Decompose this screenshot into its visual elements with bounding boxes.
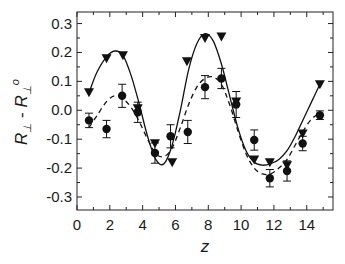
circle-point: [266, 174, 274, 182]
y-tick-label: -0.2: [46, 159, 72, 176]
y-tick-label: 0.0: [51, 101, 72, 118]
triangle-point: [216, 33, 226, 42]
x-tick-label: 14: [298, 216, 315, 233]
y-tick-label: 0.2: [51, 43, 72, 60]
circle-point: [232, 100, 240, 108]
y-tick-label: 0.1: [51, 72, 72, 89]
triangle-point: [315, 80, 325, 89]
circle-point: [166, 132, 174, 140]
y-tick-label: -0.3: [46, 188, 72, 205]
triangle-point: [167, 158, 177, 167]
x-tick-label: 0: [73, 216, 81, 233]
triangle-point: [84, 88, 94, 97]
x-tick-label: 12: [266, 216, 283, 233]
circle-point: [118, 92, 126, 100]
y-tick-label: 0.3: [51, 15, 72, 32]
x-tick-label: 8: [204, 216, 212, 233]
triangle-point: [118, 51, 128, 60]
circle-point: [184, 128, 192, 136]
circle-point: [283, 167, 291, 175]
x-tick-label: 10: [233, 216, 250, 233]
circle-point: [85, 116, 93, 124]
circle-point: [217, 74, 225, 82]
x-tick-label: 2: [106, 216, 114, 233]
circle-point: [134, 108, 142, 116]
y-axis-label: R⊥ - R⊥o: [9, 79, 33, 145]
circle-point: [201, 83, 209, 91]
x-axis-label: z: [200, 237, 210, 256]
triangle-point: [200, 34, 210, 43]
y-tick-label: -0.1: [46, 130, 72, 147]
svg-text:R⊥ - R⊥o: R⊥ - R⊥o: [9, 79, 33, 145]
x-tick-label: 6: [171, 216, 179, 233]
circle-point: [298, 139, 306, 147]
x-tick-label: 4: [138, 216, 146, 233]
circle-point: [250, 136, 258, 144]
circle-point: [151, 149, 159, 157]
data-points: [84, 33, 325, 187]
chart: 024681012140.30.20.10.0-0.1-0.2-0.3 z R⊥…: [0, 0, 345, 264]
circle-point: [102, 125, 110, 133]
circle-point: [316, 111, 324, 119]
